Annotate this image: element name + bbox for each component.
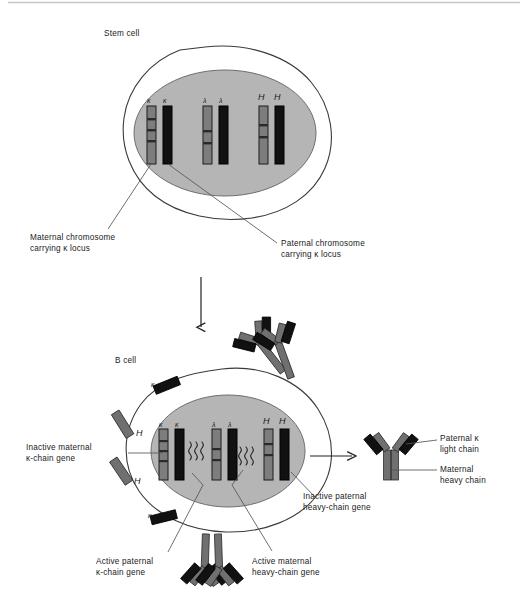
gene-label-kappa-paternal: κ bbox=[163, 95, 167, 106]
free-chain-label-heavy-lower: H bbox=[134, 476, 141, 487]
annotation-maternal-chromosome-line2: carrying κ locus bbox=[30, 243, 90, 254]
annotation-active-paternal-kappa-line1: Active paternal bbox=[96, 556, 153, 567]
free-chain-label-heavy-upper: H bbox=[136, 428, 143, 439]
annotation-paternal-chromosome-line1: Paternal chromosome bbox=[281, 238, 365, 249]
annotation-inactive-paternal-heavy-line1: Inactive paternal bbox=[303, 491, 366, 502]
figure-canvas: Stem cell κ κ λ λ H H Maternal chromosom… bbox=[0, 0, 528, 616]
b-chromosome-paternal-kappa bbox=[175, 429, 184, 480]
chromosome-maternal-heavy bbox=[259, 106, 268, 164]
chromosome-paternal-heavy bbox=[275, 106, 284, 164]
annotation-maternal-heavy-chain-line1: Maternal bbox=[440, 464, 473, 475]
annotation-active-paternal-kappa-line2: κ-chain gene bbox=[96, 567, 145, 578]
b-gene-label-heavy-maternal: H bbox=[263, 416, 270, 427]
b-chromosome-maternal-lambda bbox=[212, 429, 221, 480]
annotation-inactive-maternal-kappa-line2: κ-chain gene bbox=[26, 453, 75, 464]
annotation-active-maternal-heavy-line2: heavy-chain gene bbox=[252, 567, 320, 578]
gene-label-heavy-paternal: H bbox=[274, 92, 281, 103]
b-chromosome-paternal-lambda bbox=[228, 429, 237, 480]
b-chromosome-maternal-heavy bbox=[264, 429, 273, 480]
b-chromosome-maternal-kappa bbox=[159, 429, 168, 480]
gene-label-heavy-maternal: H bbox=[258, 92, 265, 103]
annotation-inactive-maternal-kappa-line1: Inactive maternal bbox=[26, 442, 92, 453]
surface-antibody-lower bbox=[180, 533, 244, 590]
chromosome-maternal-kappa bbox=[147, 106, 156, 164]
annotation-paternal-kappa-light-chain-line2: light chain bbox=[440, 444, 479, 455]
stem-cell-title: Stem cell bbox=[104, 28, 139, 39]
b-gene-label-lambda-paternal: λ bbox=[228, 419, 232, 430]
annotation-paternal-chromosome-line2: carrying κ locus bbox=[281, 249, 341, 260]
annotation-paternal-kappa-light-chain-line1: Paternal κ bbox=[440, 433, 479, 444]
b-cell-title: B cell bbox=[115, 355, 136, 366]
annotation-maternal-heavy-chain-line2: heavy chain bbox=[440, 475, 486, 486]
annotation-active-maternal-heavy-line1: Active maternal bbox=[252, 556, 311, 567]
chromosome-paternal-lambda bbox=[219, 106, 228, 164]
b-gene-label-lambda-maternal: λ bbox=[212, 419, 216, 430]
gene-label-lambda-maternal: λ bbox=[203, 95, 207, 106]
gene-label-kappa-maternal: κ bbox=[147, 95, 151, 106]
chromosome-maternal-lambda bbox=[203, 106, 212, 164]
annotation-inactive-paternal-heavy-line2: heavy-chain gene bbox=[303, 502, 371, 513]
b-gene-label-kappa-paternal: κ bbox=[175, 419, 179, 430]
b-gene-label-kappa-maternal: κ bbox=[159, 419, 163, 430]
b-gene-label-heavy-paternal: H bbox=[279, 416, 286, 427]
b-chromosome-paternal-heavy bbox=[280, 429, 289, 480]
free-chain-label-kappa-bottom: κ bbox=[148, 510, 152, 521]
free-chain-label-kappa-top: κ bbox=[151, 379, 155, 390]
chromosome-paternal-kappa bbox=[163, 106, 172, 164]
gene-label-lambda-paternal: λ bbox=[219, 95, 223, 106]
product-antibody bbox=[363, 429, 418, 480]
annotation-maternal-chromosome-line1: Maternal chromosome bbox=[30, 232, 115, 243]
